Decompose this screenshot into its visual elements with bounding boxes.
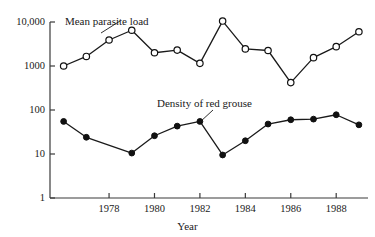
data-point-marker: [242, 138, 248, 144]
data-point-marker: [265, 121, 271, 127]
y-axis-tick-label: 10: [0, 149, 45, 160]
data-point-marker: [151, 50, 157, 56]
data-series: [60, 18, 362, 158]
data-point-marker: [83, 53, 89, 59]
y-axis-tick-label: 10,000: [0, 17, 45, 28]
data-point-marker: [356, 122, 362, 128]
data-point-marker: [242, 46, 248, 52]
data-point-marker: [288, 117, 294, 123]
data-point-marker: [310, 54, 316, 60]
data-point-marker: [197, 119, 203, 125]
annotation-leader-line: [200, 110, 213, 122]
data-point-marker: [60, 63, 66, 69]
data-point-marker: [129, 150, 135, 156]
x-axis-title: Year: [0, 221, 375, 232]
data-point-marker: [219, 18, 225, 24]
y-axis-tick-label: 1000: [0, 61, 45, 72]
data-point-marker: [265, 47, 271, 53]
y-axis-tick-label: 1: [0, 193, 45, 204]
chart-plot-area: [0, 0, 375, 237]
data-point-marker: [174, 123, 180, 129]
data-point-marker: [220, 152, 226, 158]
data-point-marker: [333, 43, 339, 49]
chart-figure: 10,0001000100101 19781980198219841986198…: [0, 0, 375, 237]
series-line-parasite-load: [64, 21, 359, 83]
data-point-marker: [288, 79, 294, 85]
data-point-marker: [61, 119, 67, 125]
data-point-marker: [174, 47, 180, 53]
data-point-marker: [152, 133, 158, 139]
data-point-marker: [197, 60, 203, 66]
data-point-marker: [311, 116, 317, 122]
annotation-label-parasite-load: Mean parasite load: [65, 16, 149, 27]
x-axis-tick-label: 1988: [306, 204, 366, 215]
annotation-label-grouse-density: Density of red grouse: [157, 98, 252, 109]
data-point-marker: [106, 37, 112, 43]
data-point-marker: [333, 112, 339, 118]
data-point-marker: [356, 29, 362, 35]
y-axis-tick-label: 100: [0, 105, 45, 116]
data-point-marker: [83, 134, 89, 140]
data-point-marker: [129, 27, 135, 33]
